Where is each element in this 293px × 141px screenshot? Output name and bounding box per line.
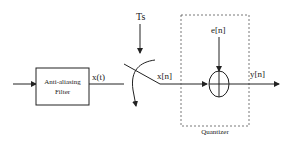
filter-label-line1: Anti-aliasing — [44, 78, 81, 86]
ts-label: Ts — [136, 11, 145, 22]
switch-rotation-arrow — [132, 60, 155, 106]
yn-label: y[n] — [250, 69, 265, 79]
en-label: e[n] — [211, 25, 226, 35]
xt-label: x(t) — [92, 72, 105, 82]
block-diagram: Anti-aliasing Filter x(t) Ts x[n] Quanti… — [0, 0, 293, 141]
adder-icon — [209, 71, 229, 97]
quantizer-label: Quantizer — [201, 128, 229, 136]
anti-aliasing-filter-block: Anti-aliasing Filter — [36, 68, 89, 105]
xn-label: x[n] — [157, 71, 172, 81]
filter-label-line2: Filter — [55, 88, 71, 96]
sampling-switch — [124, 60, 160, 106]
